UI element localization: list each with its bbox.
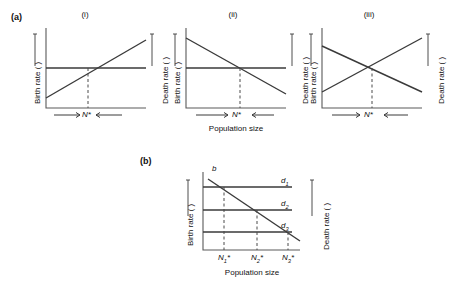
panel-b-n3-star: * xyxy=(291,253,294,262)
panel-b-d1-sub: 1 xyxy=(285,181,288,187)
panel-b-d3-label: d3 xyxy=(281,221,289,232)
subpanel-roman-iii: (iii) xyxy=(344,10,394,19)
subpanel-roman-ii: (ii) xyxy=(208,10,258,19)
subpanel-iii-nstar-label: N* xyxy=(364,110,373,119)
subpanel-i-death-line xyxy=(46,40,146,98)
subpanel-i-nstar-label: N* xyxy=(82,110,91,119)
figure-root: (a) (i) (ii) (iii) xyxy=(0,0,457,287)
panel-b-d3-sub: 3 xyxy=(285,226,288,232)
subpanel-iii-birth-line xyxy=(322,46,422,92)
panel-b-n1-star: * xyxy=(227,253,230,262)
panel-a-drawing xyxy=(0,0,457,287)
subpanel-ii-nstar-label: N* xyxy=(232,110,241,119)
subpanel-i-left-axis-label: Birth rate ( ) xyxy=(33,62,42,104)
panel-a-letter: (a) xyxy=(11,12,22,22)
panel-b-right-axis-label: Death rate ( ) xyxy=(322,203,331,250)
subpanel-ii-birth-line xyxy=(186,38,286,94)
panel-b-n3-label: N3* xyxy=(274,253,302,264)
panel-b-birth-curve-label: b xyxy=(212,164,216,173)
panel-b-birth-line xyxy=(208,179,300,241)
subpanel-iii-right-axis-label: Death rate ( ) xyxy=(437,57,446,104)
subpanel-roman-i: (i) xyxy=(60,10,110,19)
panel-b-n2-star: * xyxy=(260,253,263,262)
panel-a-xaxis-caption: Population size xyxy=(186,124,286,133)
subpanel-iii-left-axis-label: Birth rate ( ) xyxy=(309,62,318,104)
subpanel-iii-frame xyxy=(322,28,422,108)
panel-b-xaxis-caption: Population size xyxy=(202,268,302,277)
subpanel-ii-right-bracket xyxy=(290,34,294,66)
subpanel-i-frame xyxy=(46,28,146,108)
panel-b-d2-label: d2 xyxy=(281,199,289,210)
subpanel-ii-frame xyxy=(186,28,286,108)
subpanel-i-right-axis-label: Death rate ( ) xyxy=(161,57,170,104)
panel-b-left-axis-label: Birth rate ( ) xyxy=(186,204,195,246)
panel-b-letter: (b) xyxy=(140,156,152,166)
subpanel-i-right-bracket xyxy=(150,34,154,66)
panel-b-n1-label: N1* xyxy=(210,253,238,264)
panel-b-right-bracket xyxy=(310,180,314,216)
panel-b-n2-label: N2* xyxy=(243,253,271,264)
subpanel-iii-right-bracket xyxy=(426,34,430,66)
panel-b-d2-sub: 2 xyxy=(285,204,288,210)
panel-b-d1-label: d1 xyxy=(281,176,289,187)
subpanel-iii-death-line xyxy=(322,38,422,92)
subpanel-ii-left-axis-label: Birth rate ( ) xyxy=(173,62,182,104)
